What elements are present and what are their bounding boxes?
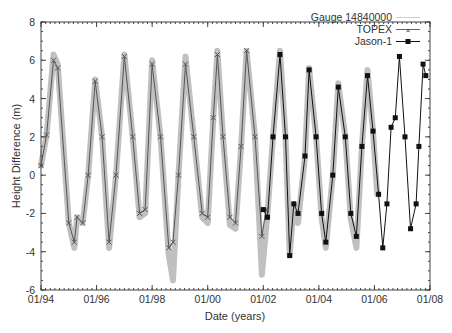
- y-tick-label: -4: [26, 246, 35, 258]
- legend-label-jason: Jason-1: [355, 35, 393, 47]
- x-tick-label: 01/00: [195, 293, 221, 305]
- y-tick-labels: -6-4-202468: [26, 16, 36, 296]
- square-marker-icon: [384, 201, 389, 206]
- legend-marker-jason-icon: [406, 39, 411, 44]
- y-tick-label: -2: [26, 207, 35, 219]
- square-marker-icon: [423, 73, 428, 78]
- square-marker-icon: [376, 192, 381, 197]
- square-marker-icon: [283, 134, 288, 139]
- x-tick-label: 01/08: [417, 293, 443, 305]
- x-tick-labels: 01/9401/9601/9801/0001/0201/0401/0601/08: [28, 293, 443, 305]
- square-marker-icon: [296, 211, 301, 216]
- square-marker-icon: [302, 154, 307, 159]
- square-marker-icon: [323, 240, 328, 245]
- x-tick-label: 01/96: [83, 293, 109, 305]
- square-marker-icon: [354, 234, 359, 239]
- square-marker-icon: [397, 54, 402, 59]
- square-marker-icon: [336, 85, 341, 90]
- x-tick-label: 01/06: [361, 293, 387, 305]
- square-marker-icon: [319, 211, 324, 216]
- square-marker-icon: [330, 173, 335, 178]
- y-tick-label: 4: [29, 93, 35, 105]
- square-marker-icon: [359, 144, 364, 149]
- square-marker-icon: [287, 253, 292, 258]
- plot-lines: [39, 48, 429, 280]
- square-marker-icon: [408, 226, 413, 231]
- square-marker-icon: [371, 129, 376, 134]
- square-marker-icon: [365, 73, 370, 78]
- square-marker-icon: [261, 207, 266, 212]
- square-marker-icon: [307, 67, 312, 72]
- square-marker-icon: [343, 134, 348, 139]
- square-marker-icon: [348, 211, 353, 216]
- square-marker-icon: [389, 125, 394, 130]
- y-tick-label: 6: [29, 54, 35, 66]
- square-marker-icon: [416, 144, 421, 149]
- x-tick-label: 01/02: [250, 293, 276, 305]
- square-marker-icon: [291, 201, 296, 206]
- legend-label-topex: TOPEX: [357, 23, 392, 35]
- legend-marker-topex-icon: ×: [406, 26, 411, 35]
- x-axis-label: Date (years): [205, 310, 266, 322]
- square-marker-icon: [314, 134, 319, 139]
- legend-label-gauge: Gauge 14840000: [311, 11, 392, 23]
- y-tick-label: 8: [29, 16, 35, 28]
- chart: -6-4-202468 01/9401/9601/9801/0001/0201/…: [0, 0, 452, 333]
- x-tick-label: 01/98: [139, 293, 165, 305]
- series-gauge-14840000: [41, 51, 377, 281]
- y-tick-label: 0: [29, 169, 35, 181]
- square-marker-icon: [393, 115, 398, 120]
- square-marker-icon: [271, 134, 276, 139]
- legend: Gauge 14840000 TOPEX × Jason-1: [311, 11, 420, 47]
- square-marker-icon: [265, 215, 270, 220]
- square-marker-icon: [414, 201, 419, 206]
- x-tick-label: 01/04: [306, 293, 332, 305]
- square-marker-icon: [402, 134, 407, 139]
- square-marker-icon: [380, 245, 385, 250]
- square-marker-icon: [421, 62, 426, 67]
- x-tick-label: 01/94: [28, 293, 54, 305]
- y-axis-label: Height Difference (m): [10, 104, 22, 208]
- square-marker-icon: [277, 52, 282, 57]
- y-tick-label: 2: [29, 131, 35, 143]
